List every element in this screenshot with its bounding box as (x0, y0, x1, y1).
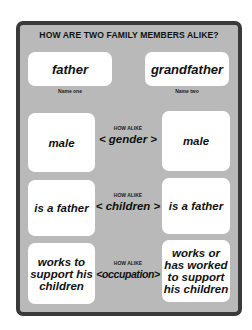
row-occupation-right-value: works or has worked to support his child… (162, 247, 230, 295)
how-alike-label: HOW ALIKE (93, 260, 163, 266)
trait-gender: < gender > (93, 133, 163, 145)
row-children-right-value: is a father (169, 200, 223, 212)
name-two-value: grandfather (151, 62, 223, 77)
how-alike-label: HOW ALIKE (93, 192, 163, 198)
row-gender-left-value: male (48, 137, 74, 149)
row-occupation-right-box: works or has worked to support his child… (162, 240, 230, 302)
row-occupation-left-box: works to support his children (28, 243, 95, 304)
row-children-left-value: is a father (34, 202, 88, 214)
row-children-left-box: is a father (28, 180, 95, 236)
row-gender-right-box: male (162, 111, 230, 171)
organizer-title: HOW ARE TWO FAMILY MEMBERS ALIKE? (20, 30, 238, 40)
name-one-value: father (52, 62, 88, 77)
row-occupation-left-value: works to support his children (28, 256, 95, 292)
how-alike-label: HOW ALIKE (93, 125, 163, 131)
graphic-organizer-panel: HOW ARE TWO FAMILY MEMBERS ALIKE? father… (16, 21, 242, 316)
trait-children: < children > (93, 200, 163, 212)
name-two-caption: Name two (145, 88, 229, 94)
row-gender-left-box: male (28, 113, 95, 172)
row-gender-right-value: male (183, 135, 209, 147)
trait-occupation: <occupation> (93, 268, 163, 280)
name-two-box: grandfather (145, 52, 229, 86)
name-one-box: father (28, 52, 112, 86)
row-children-right-box: is a father (162, 178, 230, 234)
name-one-caption: Name one (28, 88, 112, 94)
